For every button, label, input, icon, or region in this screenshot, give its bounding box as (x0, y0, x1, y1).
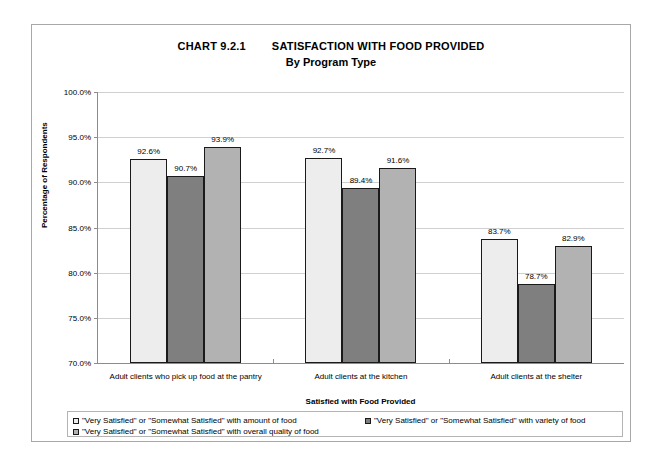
bar (204, 147, 241, 363)
y-axis-tick-label: 100.0% (64, 88, 91, 97)
y-axis-tick-label: 95.0% (68, 133, 91, 142)
legend-row: "Very Satisfied" or "Somewhat Satisfied"… (73, 416, 617, 426)
x-axis-category-label: Adult clients at the kitchen (315, 372, 408, 381)
bar (305, 158, 342, 363)
legend-label-amount: "Very Satisfied" or "Somewhat Satisfied"… (82, 416, 297, 425)
bar (379, 168, 416, 363)
y-axis-tick-label: 90.0% (68, 178, 91, 187)
x-axis-group-tick (273, 359, 274, 363)
chart-subtitle: By Program Type (32, 56, 630, 68)
legend-row: "Very Satisfied" or "Somewhat Satisfied"… (73, 427, 617, 437)
bar-group: 92.7%89.4%91.6%Adult clients at the kitc… (273, 92, 448, 363)
legend-swatch-amount (73, 418, 79, 424)
bar (555, 246, 592, 363)
x-axis-category-label: Adult clients at the shelter (491, 372, 583, 381)
chart-frame: CHART 9.2.1 SATISFACTION WITH FOOD PROVI… (31, 24, 631, 442)
legend-entry-amount: "Very Satisfied" or "Somewhat Satisfied"… (73, 416, 297, 425)
y-axis-tick-label: 85.0% (68, 223, 91, 232)
bar-value-label: 82.9% (562, 234, 585, 243)
y-axis-tick-label: 80.0% (68, 268, 91, 277)
bar-value-label: 92.7% (313, 146, 336, 155)
bar-value-label: 93.9% (211, 135, 234, 144)
y-axis-label: Percentage of Respondents (40, 122, 49, 228)
bar (518, 284, 555, 363)
y-axis-tick-label: 75.0% (68, 313, 91, 322)
chart-title: CHART 9.2.1 SATISFACTION WITH FOOD PROVI… (32, 40, 630, 52)
bar-value-label: 89.4% (350, 176, 373, 185)
bar-value-label: 83.7% (488, 227, 511, 236)
bar-value-label: 92.6% (137, 147, 160, 156)
bar (481, 239, 518, 363)
chart-legend: "Very Satisfied" or "Somewhat Satisfied"… (67, 411, 623, 437)
bar-group: 92.6%90.7%93.9%Adult clients who pick up… (98, 92, 273, 363)
bar (342, 188, 379, 363)
legend-entry-quality: "Very Satisfied" or "Somewhat Satisfied"… (73, 427, 319, 436)
y-axis-tick-label: 70.0% (68, 359, 91, 368)
bar (130, 159, 167, 363)
legend-label-variety: "Very Satisfied" or "Somewhat Satisfied"… (374, 416, 585, 425)
x-axis-label: Satisfied with Food Provided (97, 397, 624, 406)
bar-value-label: 78.7% (525, 272, 548, 281)
legend-swatch-quality (73, 429, 79, 435)
bar-value-label: 90.7% (174, 164, 197, 173)
bar (167, 176, 204, 363)
x-axis-category-label: Adult clients who pick up food at the pa… (110, 372, 262, 381)
legend-label-quality: "Very Satisfied" or "Somewhat Satisfied"… (82, 427, 319, 436)
legend-swatch-variety (365, 418, 371, 424)
bar-group: 83.7%78.7%82.9%Adult clients at the shel… (449, 92, 624, 363)
y-axis-tick (94, 363, 98, 364)
chart-title-block: CHART 9.2.1 SATISFACTION WITH FOOD PROVI… (32, 40, 630, 68)
bar-value-label: 91.6% (387, 156, 410, 165)
plot-area: 100.0%95.0%90.0%85.0%80.0%75.0%70.0%92.6… (97, 92, 624, 364)
legend-entry-variety: "Very Satisfied" or "Somewhat Satisfied"… (365, 416, 585, 425)
x-axis-group-tick (449, 359, 450, 363)
